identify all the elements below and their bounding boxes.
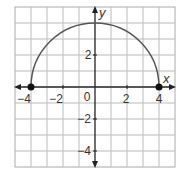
y-tick-label: −4	[77, 144, 91, 158]
x-tick-label: 2	[123, 92, 130, 106]
x-tick-label: 4	[156, 92, 163, 106]
y-tick-label: −2	[77, 112, 91, 126]
x-tick-label: −2	[49, 92, 63, 106]
origin-label: 0	[84, 90, 91, 104]
endpoint-right	[156, 84, 163, 91]
x-tick-label: −4	[17, 92, 31, 106]
y-tick-label: 2	[85, 48, 92, 62]
endpoint-left	[28, 84, 35, 91]
coordinate-plane: x y −4 −2 0 2 4 2 −2 −4	[0, 0, 184, 176]
x-axis-label: x	[162, 71, 170, 86]
